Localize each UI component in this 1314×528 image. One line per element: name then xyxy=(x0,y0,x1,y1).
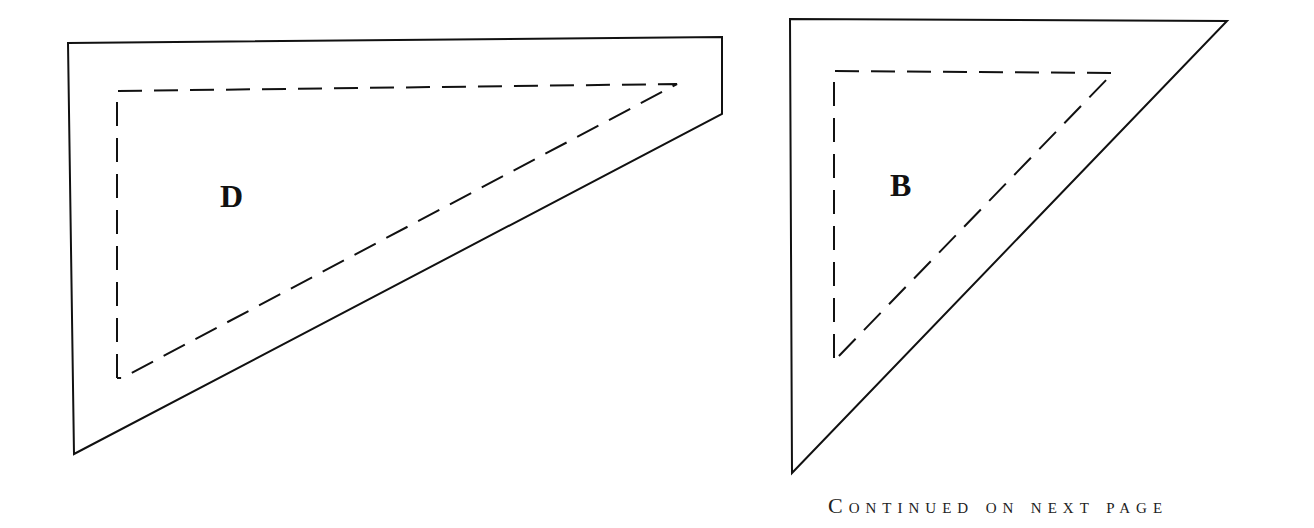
piece-d-cut-line xyxy=(68,37,722,454)
pattern-page: D B Continued on next page xyxy=(0,0,1314,528)
pattern-pieces-drawing xyxy=(0,0,1314,528)
piece-b-seam-line xyxy=(834,71,1113,358)
piece-d-seam-line xyxy=(117,84,677,378)
piece-d-label: D xyxy=(220,180,243,212)
piece-b-cut-line xyxy=(790,19,1227,473)
piece-b-label: B xyxy=(890,169,911,201)
continued-on-next-page-note: Continued on next page xyxy=(828,493,1168,519)
